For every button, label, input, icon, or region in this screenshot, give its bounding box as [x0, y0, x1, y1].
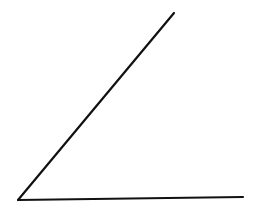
angle-diagram	[0, 0, 260, 219]
inclined-ray	[18, 13, 174, 200]
angle-figure	[0, 0, 260, 219]
horizontal-ray	[18, 197, 243, 200]
